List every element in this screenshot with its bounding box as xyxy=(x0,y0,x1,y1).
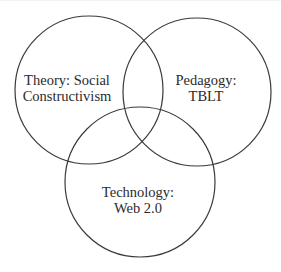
theory-label-line-1: Theory: Social xyxy=(16,72,118,88)
pedagogy-label-line-1: Pedagogy: xyxy=(170,72,242,88)
technology-label-line-1: Technology: xyxy=(96,184,180,200)
technology-circle xyxy=(65,107,215,257)
venn-diagram: Theory: Social Constructivism Pedagogy: … xyxy=(0,0,281,272)
technology-label: Technology: Web 2.0 xyxy=(96,184,180,216)
technology-label-line-2: Web 2.0 xyxy=(96,200,180,216)
venn-circles xyxy=(0,0,281,272)
theory-label: Theory: Social Constructivism xyxy=(16,72,118,104)
theory-label-line-2: Constructivism xyxy=(16,88,118,104)
pedagogy-label: Pedagogy: TBLT xyxy=(170,72,242,104)
pedagogy-label-line-2: TBLT xyxy=(170,88,242,104)
